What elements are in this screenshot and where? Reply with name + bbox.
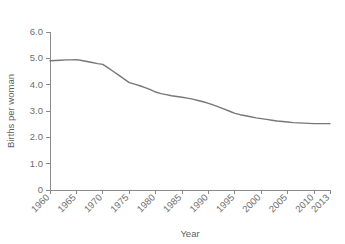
y-tick-label: 2.0 (30, 131, 43, 142)
x-axis-title: Year (180, 228, 199, 239)
x-tick-label: 1990 (187, 192, 210, 215)
series-line-births-per-woman (50, 60, 330, 124)
y-tick-label: 1.0 (30, 158, 43, 169)
chart-container: 6.05.04.03.02.01.00 19601965197019751980… (0, 0, 345, 244)
y-tick-label: 3.0 (30, 105, 43, 116)
y-axis-title: Births per woman (5, 74, 16, 148)
x-tick-label: 1980 (134, 192, 157, 215)
x-tick-label: 1960 (29, 192, 52, 215)
y-tick-label: 6.0 (30, 26, 43, 37)
y-tick-label: 5.0 (30, 52, 43, 63)
y-tick-label: 4.0 (30, 79, 43, 90)
x-tick-label: 1965 (55, 192, 78, 215)
line-chart: 6.05.04.03.02.01.00 19601965197019751980… (0, 0, 345, 244)
x-tick-label: 2005 (266, 192, 289, 215)
y-axis: 6.05.04.03.02.01.00 (30, 26, 50, 195)
data-series-group (50, 60, 330, 124)
x-tick-label: 1995 (214, 192, 237, 215)
x-tick-label: 1970 (82, 192, 105, 215)
x-tick-label: 2013 (309, 192, 332, 215)
x-tick-label: 1975 (108, 192, 131, 215)
x-tick-label: 2000 (240, 192, 263, 215)
x-tick-label: 1985 (161, 192, 184, 215)
x-axis: 1960196519701975198019851990199520002005… (29, 190, 332, 214)
